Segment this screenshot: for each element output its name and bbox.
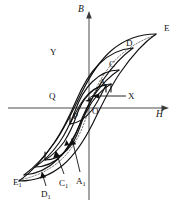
point-label-A1-letter: A <box>76 176 83 186</box>
point-label-P: P <box>73 112 78 121</box>
point-label-Y: Y <box>50 48 57 57</box>
axis-label-H: H <box>156 110 163 120</box>
point-label-E: E <box>164 24 170 33</box>
point-label-E1-letter: E <box>13 177 19 187</box>
axis-label-B: B <box>78 5 84 15</box>
hysteresis-diagram-canvas <box>0 0 179 211</box>
point-label-A: A <box>99 78 106 87</box>
point-label-C1-sub: 1 <box>65 182 68 189</box>
point-label-C1: C1 <box>59 179 68 188</box>
point-label-E1-sub: 1 <box>19 181 22 188</box>
leader-arrow-D1 <box>40 172 46 186</box>
point-label-O: O <box>92 107 99 116</box>
point-label-A1-sub: 1 <box>83 180 86 187</box>
x-leader-arrow <box>92 93 126 98</box>
point-label-D: D <box>126 39 133 48</box>
leader-arrow-A1 <box>70 138 80 172</box>
hysteresis-figure: B H E D C A Y Q X O P E1 D1 C1 A1 <box>0 0 179 211</box>
point-label-E1: E1 <box>13 178 22 187</box>
point-label-A1: A1 <box>76 177 86 186</box>
point-label-Q: Q <box>49 92 56 101</box>
point-label-D1-sub: 1 <box>48 193 51 200</box>
point-label-D1-letter: D <box>41 189 48 199</box>
point-label-C: C <box>109 60 115 69</box>
point-label-D1: D1 <box>41 190 51 199</box>
point-label-X: X <box>128 92 135 101</box>
